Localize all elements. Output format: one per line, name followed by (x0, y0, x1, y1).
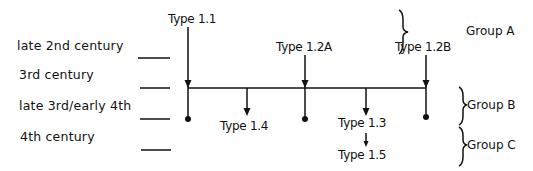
period-label: 3rd century (19, 67, 94, 82)
arrow-head-icon (302, 80, 309, 88)
group-a-label: Group A (466, 24, 515, 38)
arrow-head-icon (423, 80, 430, 88)
type-1-2b-label: Type 1.2B (395, 40, 451, 54)
type-1-1-label: Type 1.1 (168, 12, 216, 26)
typology-diagram (0, 0, 533, 171)
period-label: late 2nd century (17, 38, 124, 53)
group-c-brace (459, 127, 467, 166)
arrow-head-icon (364, 141, 369, 147)
group-c-label: Group C (467, 138, 516, 152)
type-1-4-label: Type 1.4 (220, 119, 268, 133)
group-b-label: Group B (467, 98, 516, 112)
period-label: late 3rd/early 4th (19, 98, 131, 113)
arrow-head-icon (185, 80, 192, 88)
terminal-dot-icon (302, 116, 308, 122)
arrow-head-icon (363, 108, 370, 116)
group-b-brace (459, 87, 467, 125)
terminal-dot-icon (185, 116, 191, 122)
terminal-dot-icon (423, 114, 429, 120)
period-label: 4th century (20, 129, 95, 144)
type-1-5-label: Type 1.5 (338, 148, 386, 162)
type-1-2a-label: Type 1.2A (276, 40, 332, 54)
arrow-head-icon (244, 108, 251, 116)
type-1-3-label: Type 1.3 (338, 116, 386, 130)
